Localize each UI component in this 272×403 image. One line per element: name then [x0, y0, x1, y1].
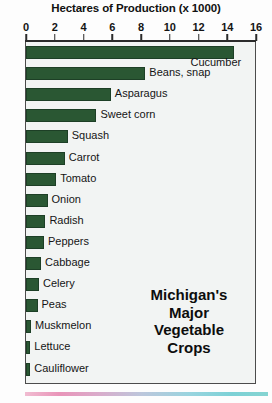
bar-row: Onion: [0, 194, 272, 207]
bar: [26, 88, 111, 101]
bar-label: Cauliflower: [34, 362, 88, 374]
caption-line-2: Major: [128, 304, 250, 322]
bar: [26, 152, 65, 165]
bar: [26, 278, 39, 291]
decorative-gradient-strip: [25, 392, 268, 396]
bar-label: Peas: [42, 298, 67, 310]
bar-label: Squash: [72, 129, 109, 141]
bar-row: Cabbage: [0, 257, 272, 270]
caption-line-3: Vegetable: [128, 321, 250, 339]
bar-row: Peppers: [0, 236, 272, 249]
bar-label: Peppers: [48, 235, 89, 247]
bar-label: Radish: [49, 214, 83, 226]
bar-label: Tomato: [60, 172, 96, 184]
caption-line-1: Michigan's: [128, 286, 250, 304]
chart-caption: Michigan's Major Vegetable Crops: [128, 286, 250, 357]
bar: [26, 299, 38, 312]
bar-row: Tomato: [0, 173, 272, 186]
bar-label: Carrot: [69, 151, 100, 163]
bar-row: Sweet corn: [0, 109, 272, 122]
bar-row: Beans, snap: [0, 67, 272, 80]
bar: [26, 257, 41, 270]
bar: [26, 320, 31, 333]
bar-row: Radish: [0, 215, 272, 228]
bar-label: Lettuce: [34, 340, 70, 352]
bar: [26, 363, 30, 376]
bar-row: Carrot: [0, 152, 272, 165]
bar-row: Squash: [0, 130, 272, 143]
caption-line-4: Crops: [128, 339, 250, 357]
bar: [26, 194, 48, 207]
bar: [26, 236, 44, 249]
bar-label: Asparagus: [115, 87, 168, 99]
bar-row: Asparagus: [0, 88, 272, 101]
bar-label: Cabbage: [45, 256, 90, 268]
bar-label: Onion: [52, 193, 81, 205]
chart-figure: Hectares of Production (x 1000) 02468101…: [0, 0, 272, 403]
bar-row: Cauliflower: [0, 363, 272, 376]
bar: [26, 109, 96, 122]
bar-row: Cucumber: [0, 46, 272, 59]
bar: [26, 130, 68, 143]
bar: [26, 215, 45, 228]
bar-label: Celery: [43, 277, 75, 289]
bar-label: Beans, snap: [149, 66, 210, 78]
bar: [26, 173, 56, 186]
bar-label: Muskmelon: [35, 319, 91, 331]
bar: [26, 67, 145, 80]
bar: [26, 341, 30, 354]
bar-label: Sweet corn: [100, 108, 155, 120]
